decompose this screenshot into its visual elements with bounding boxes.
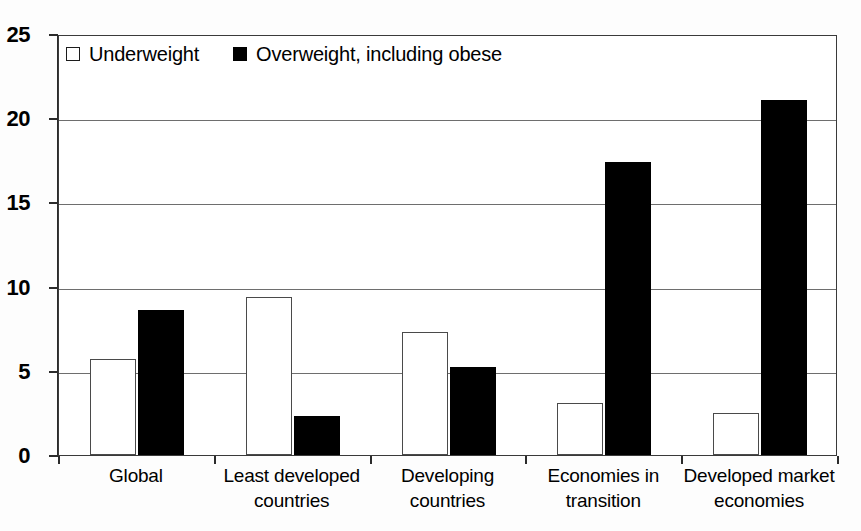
x-axis-category-label: Developed market economies bbox=[681, 463, 837, 513]
gridline bbox=[59, 289, 836, 290]
bar-underweight bbox=[402, 332, 448, 455]
bar-underweight bbox=[713, 413, 759, 455]
x-axis-category-label: Global bbox=[58, 463, 214, 488]
legend-item: Overweight, including obese bbox=[233, 44, 502, 64]
bar-overweight bbox=[605, 162, 651, 455]
gridline bbox=[59, 204, 836, 205]
x-axis-category-label: Least developed countries bbox=[214, 463, 370, 513]
x-axis-category-label: Developing countries bbox=[370, 463, 526, 513]
bar-underweight bbox=[557, 403, 603, 455]
y-axis-tick-label: 5 bbox=[18, 361, 30, 383]
plot-area bbox=[58, 35, 837, 456]
x-axis-category-label: Economies in transition bbox=[525, 463, 681, 513]
solid-square-icon bbox=[233, 47, 247, 61]
bar-overweight bbox=[138, 310, 184, 455]
gridline bbox=[59, 120, 836, 121]
chart-legend: UnderweightOverweight, including obese bbox=[66, 44, 502, 64]
y-axis-tick-label: 15 bbox=[7, 192, 30, 214]
y-axis: 0510152025 bbox=[0, 0, 44, 531]
y-axis-tick-label: 10 bbox=[7, 277, 30, 299]
x-axis: GlobalLeast developed countriesDevelopin… bbox=[0, 463, 861, 531]
bar-overweight bbox=[294, 416, 340, 455]
bar-chart: 0510152025 GlobalLeast developed countri… bbox=[0, 0, 861, 531]
bar-underweight bbox=[246, 297, 292, 455]
bar-overweight bbox=[450, 367, 496, 455]
legend-item-label: Overweight, including obese bbox=[256, 44, 502, 64]
legend-item: Underweight bbox=[66, 44, 199, 64]
bar-underweight bbox=[90, 359, 136, 455]
bar-overweight bbox=[761, 100, 807, 455]
y-axis-tick-label: 25 bbox=[7, 24, 30, 46]
legend-item-label: Underweight bbox=[89, 44, 199, 64]
hollow-square-icon bbox=[66, 47, 80, 61]
y-axis-tick-label: 20 bbox=[7, 108, 30, 130]
